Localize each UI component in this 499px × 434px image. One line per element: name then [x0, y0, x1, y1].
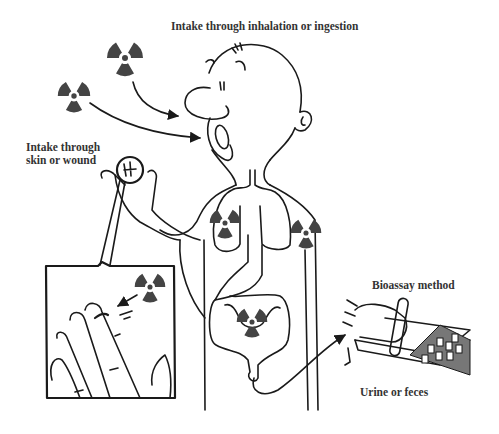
label-skin-wound-line1: Intake through — [26, 141, 100, 154]
intestine-organ — [210, 295, 290, 381]
inhalation-arrow — [133, 82, 178, 116]
label-skin-wound-line2: skin or wound — [26, 154, 96, 167]
label-urine-feces: Urine or feces — [360, 386, 428, 399]
radiation-trefoil-icon — [58, 82, 90, 112]
lungs-organ — [214, 170, 291, 251]
person-head — [185, 43, 311, 185]
radiation-trefoil-icon — [291, 220, 322, 249]
label-bioassay-method: Bioassay method — [372, 279, 455, 292]
excretion-arrow — [253, 335, 345, 394]
label-inhalation-ingestion: Intake through inhalation or ingestion — [171, 20, 358, 33]
radiation-trefoil-icon — [135, 274, 166, 303]
ingestion-arrow — [90, 103, 200, 138]
bioassay-lab — [343, 298, 470, 375]
intake-diagram: Intake through inhalation or ingestion I… — [0, 0, 499, 434]
radiation-trefoil-icon — [107, 42, 143, 76]
magnifier-handle — [110, 182, 125, 265]
stomach-organ — [215, 235, 262, 300]
